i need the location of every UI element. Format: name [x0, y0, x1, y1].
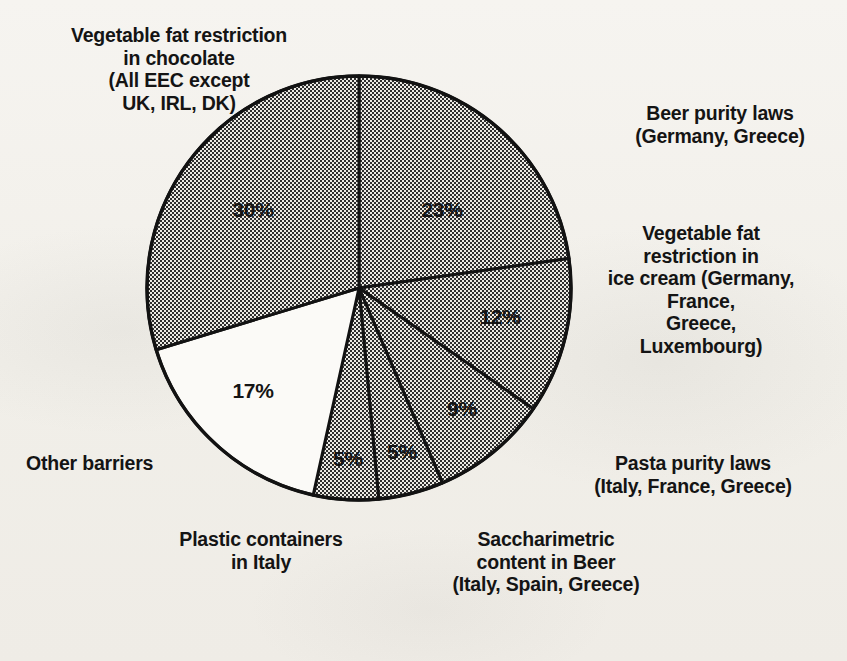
- slice-value-veg-chocolate: 30%: [232, 198, 273, 222]
- slice-value-saccharimetric: 5%: [387, 440, 417, 464]
- label-pasta-purity-laws: Pasta purity laws (Italy, France, Greece…: [548, 452, 838, 497]
- pie-slice-beer-purity: [359, 76, 569, 288]
- slice-value-other-barriers: 17%: [232, 379, 273, 403]
- slice-value-pasta-purity: 9%: [447, 397, 477, 421]
- pie-slice-group: [147, 76, 571, 500]
- slice-value-beer-purity: 23%: [421, 198, 462, 222]
- label-other-barriers: Other barriers: [26, 452, 216, 475]
- pie-chart: 30% 23% 12% 9% 5% 5% 17% Vegetable fat r…: [0, 0, 847, 661]
- slice-value-plastic: 5%: [333, 447, 363, 471]
- slice-value-veg-icecream: 12%: [479, 305, 520, 329]
- label-plastic-containers: Plastic containers in Italy: [150, 528, 372, 573]
- label-vegetable-fat-chocolate: Vegetable fat restriction in chocolate (…: [14, 24, 344, 114]
- label-vegetable-fat-ice-cream: Vegetable fat restriction in ice cream (…: [596, 222, 806, 358]
- label-beer-purity-laws: Beer purity laws (Germany, Greece): [600, 102, 840, 147]
- label-saccharimetric-beer: Saccharimetric content in Beer (Italy, S…: [408, 528, 684, 596]
